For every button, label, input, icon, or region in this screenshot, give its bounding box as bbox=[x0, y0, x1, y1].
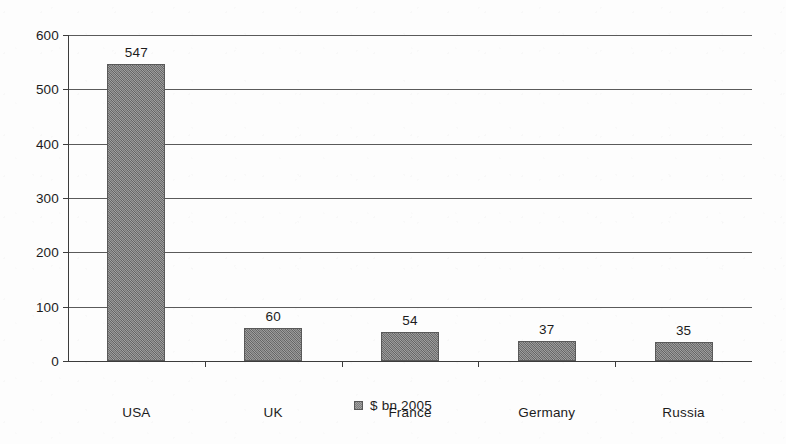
gridline-100 bbox=[68, 307, 752, 308]
y-axis-tick-label: 400 bbox=[36, 136, 59, 151]
x-axis-baseline bbox=[68, 361, 752, 362]
chart-page: 0100200300400500600 54760543735 USAUKFra… bbox=[0, 0, 786, 444]
y-tick-400 bbox=[63, 144, 69, 145]
legend-label: $ bn 2005 bbox=[370, 398, 432, 413]
y-tick-300 bbox=[63, 198, 69, 199]
plot-area: 0100200300400500600 54760543735 USAUKFra… bbox=[68, 35, 752, 361]
x-tick bbox=[342, 361, 343, 367]
chart-legend: $ bn 2005 bbox=[0, 398, 786, 413]
y-axis-tick-label: 200 bbox=[36, 245, 59, 260]
bar bbox=[107, 64, 165, 361]
y-tick-200 bbox=[63, 252, 69, 253]
x-tick bbox=[615, 361, 616, 367]
y-tick-600 bbox=[63, 35, 69, 36]
y-tick-100 bbox=[63, 307, 69, 308]
y-axis-tick-label: 100 bbox=[36, 299, 59, 314]
gridline-500 bbox=[68, 89, 752, 90]
y-axis-tick-label: 0 bbox=[51, 354, 59, 369]
bar bbox=[244, 328, 302, 361]
y-tick-500 bbox=[63, 89, 69, 90]
gridline-400 bbox=[68, 144, 752, 145]
x-tick bbox=[478, 361, 479, 367]
y-axis-tick-label: 600 bbox=[36, 28, 59, 43]
y-tick-0 bbox=[63, 361, 69, 362]
bar-value-label: 35 bbox=[676, 323, 691, 338]
bar-value-label: 547 bbox=[125, 45, 148, 60]
gridline-600 bbox=[68, 35, 752, 36]
y-axis-tick-label: 300 bbox=[36, 191, 59, 206]
gridline-300 bbox=[68, 198, 752, 199]
legend-swatch-icon bbox=[354, 401, 363, 410]
bar-value-label: 60 bbox=[265, 309, 280, 324]
bar-value-label: 37 bbox=[539, 322, 554, 337]
x-tick bbox=[205, 361, 206, 367]
bar bbox=[655, 342, 713, 361]
bar bbox=[518, 341, 576, 361]
y-axis-tick-label: 500 bbox=[36, 82, 59, 97]
gridline-200 bbox=[68, 252, 752, 253]
bar-value-label: 54 bbox=[402, 313, 417, 328]
bar bbox=[381, 332, 439, 361]
